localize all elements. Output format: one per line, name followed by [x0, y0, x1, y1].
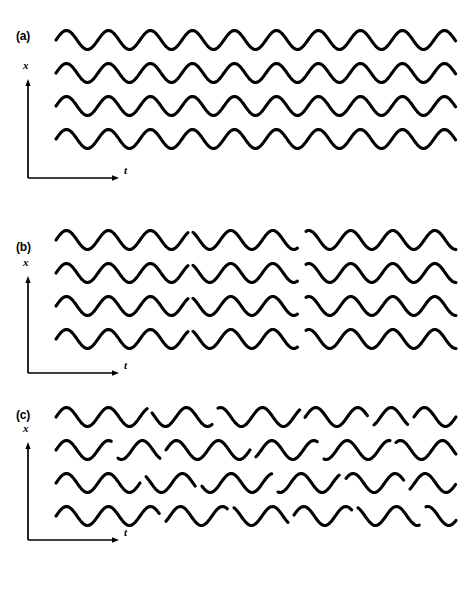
wave-segment	[56, 64, 456, 83]
wave-trace	[56, 31, 456, 50]
wave-segment	[306, 297, 456, 316]
wave-segment	[410, 474, 456, 493]
wave-segment	[152, 408, 212, 427]
wave-segment	[374, 408, 408, 425]
wave-trace	[56, 507, 456, 526]
wave-segment	[56, 441, 111, 460]
wave-group-a	[0, 0, 474, 205]
wave-segment	[56, 130, 456, 149]
wave-segment	[234, 507, 288, 526]
wave-segment	[306, 231, 456, 250]
wave-trace	[56, 474, 456, 493]
wave-segment	[218, 408, 300, 427]
wave-segment	[166, 507, 227, 526]
panel-a: (a) x t	[0, 0, 474, 205]
wave-trace	[56, 297, 456, 316]
wave-trace	[56, 264, 456, 283]
wave-group-c	[0, 395, 474, 560]
wave-segment	[56, 474, 140, 493]
wave-segment	[56, 408, 147, 427]
wave-segment	[358, 507, 419, 526]
wave-segment	[305, 408, 367, 427]
wave-group-b	[0, 205, 474, 395]
wave-segment	[56, 264, 188, 283]
wave-segment	[324, 441, 390, 460]
wave-segment	[193, 330, 297, 349]
wave-segment	[193, 264, 297, 283]
wave-trace	[56, 441, 456, 460]
wave-segment	[396, 441, 456, 460]
wave-trace	[56, 330, 456, 349]
wave-segment	[256, 441, 317, 460]
wave-segment	[193, 297, 297, 316]
wave-segment	[193, 231, 297, 250]
wave-segment	[426, 507, 456, 526]
wave-trace	[56, 231, 456, 250]
wave-segment	[56, 507, 159, 526]
wave-segment	[56, 97, 456, 116]
panel-b: (b) x t	[0, 205, 474, 395]
wave-segment	[118, 441, 160, 460]
wave-segment	[146, 474, 195, 493]
wave-segment	[56, 297, 188, 316]
wave-segment	[294, 507, 352, 526]
wave-segment	[56, 330, 188, 349]
wave-segment	[202, 474, 272, 493]
wave-trace	[56, 130, 456, 149]
wave-segment	[56, 231, 188, 250]
wave-trace	[56, 408, 456, 427]
wave-segment	[56, 31, 456, 50]
panel-c: (c) x t	[0, 395, 474, 560]
wave-trace	[56, 97, 456, 116]
wave-segment	[166, 441, 250, 460]
wave-segment	[414, 408, 456, 427]
figure-root: (a) x t (b) x t (c) x t Figure	[0, 0, 474, 591]
wave-segment	[306, 330, 456, 349]
wave-segment	[278, 474, 339, 493]
wave-segment	[306, 264, 456, 283]
wave-segment	[346, 474, 404, 493]
wave-trace	[56, 64, 456, 83]
